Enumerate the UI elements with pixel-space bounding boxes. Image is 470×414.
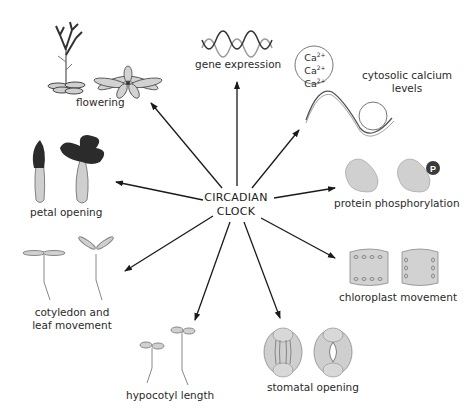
label-cytosolic-calcium: cytosolic calcium levels bbox=[352, 69, 462, 95]
ca-line-3: Ca2+ bbox=[297, 76, 333, 89]
arrow-petal-opening bbox=[116, 182, 203, 200]
label-chloroplast-movement: chloroplast movement bbox=[339, 291, 457, 304]
phosphate-badge-icon: P bbox=[426, 161, 440, 175]
label-petal-opening: petal opening bbox=[30, 206, 102, 219]
arrow-hypocotyl bbox=[195, 222, 230, 320]
flowering-plant-icon bbox=[48, 22, 85, 94]
center-line-1: CIRCADIAN bbox=[196, 191, 276, 205]
arrow-flowering bbox=[151, 103, 222, 188]
circadian-clock-label: CIRCADIAN CLOCK bbox=[196, 191, 276, 219]
label-stomatal-opening: stomatal opening bbox=[267, 381, 359, 394]
arrow-cotyledon bbox=[125, 216, 213, 271]
calcium-ions-text: Ca2+ Ca2+ Ca2+ bbox=[297, 50, 333, 89]
chloroplast-cells-icon bbox=[350, 249, 438, 286]
cotyledon-seedlings-icon bbox=[23, 235, 115, 300]
cotyledon-line-2: leaf movement bbox=[30, 319, 114, 332]
label-protein-phosphorylation: protein phosphorylation bbox=[334, 197, 460, 210]
label-flowering: flowering bbox=[76, 96, 125, 109]
arrow-stomatal bbox=[244, 222, 280, 318]
center-line-2: CLOCK bbox=[196, 205, 276, 219]
cotyledon-line-1: cotyledon and bbox=[30, 306, 114, 319]
ca-line-1: Ca2+ bbox=[297, 50, 333, 63]
arrow-chloroplast bbox=[261, 218, 335, 258]
petal-opening-icon bbox=[33, 135, 104, 203]
calcium-line-1: cytosolic calcium bbox=[352, 69, 462, 82]
label-hypocotyl-length: hypocotyl length bbox=[126, 389, 214, 402]
hypocotyl-seedlings-icon bbox=[140, 327, 195, 385]
dna-helix-icon bbox=[202, 31, 272, 57]
ca-line-2: Ca2+ bbox=[297, 63, 333, 76]
label-cotyledon-leaf-movement: cotyledon and leaf movement bbox=[30, 306, 114, 332]
stomata-icon bbox=[264, 328, 352, 377]
phospho-badge-label: P bbox=[430, 164, 436, 174]
calcium-line-2: levels bbox=[352, 82, 462, 95]
arrow-protein-phosphorylation bbox=[274, 188, 335, 198]
rosette-icon bbox=[93, 66, 162, 100]
arrow-calcium bbox=[252, 130, 299, 188]
protein-icon bbox=[345, 159, 430, 192]
label-gene-expression: gene expression bbox=[195, 58, 281, 71]
